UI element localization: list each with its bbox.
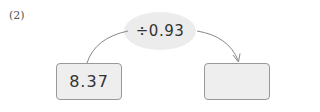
input-value-box: 8.37 bbox=[56, 63, 122, 100]
arc-to-output bbox=[197, 31, 238, 60]
answer-box[interactable] bbox=[204, 63, 270, 100]
arc-from-input bbox=[87, 31, 128, 63]
